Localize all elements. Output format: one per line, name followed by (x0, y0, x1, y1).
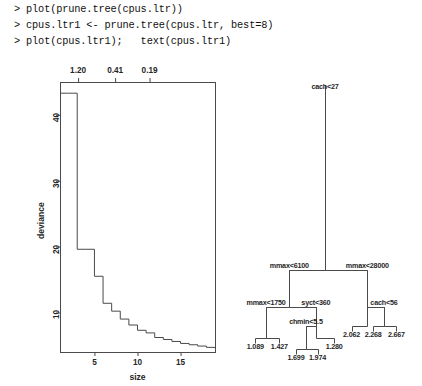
tree-leaf-label: 1.974 (309, 353, 326, 362)
tree-leaf-label: 1.280 (326, 342, 343, 351)
tree-leaf-label: 2.268 (365, 330, 382, 339)
x-axis-title: size (129, 372, 145, 382)
tree-edges-svg (228, 62, 422, 362)
tree-split-label: syct<360 (301, 298, 330, 307)
tree-split-label: chmin<5.5 (289, 317, 323, 326)
tree-leaf-label: 1.089 (247, 342, 264, 351)
tree-split-label: mmax<28000 (346, 261, 389, 270)
tree-leaf-label: 1.427 (271, 342, 288, 351)
deviance-step-plot: 1.20 0.41 0.19 40 30 20 10 5 10 15 devia… (18, 62, 228, 362)
console-line: > plot(cpus.ltr1); text(cpus.ltr1) (14, 35, 231, 47)
tree-split-label: cach<56 (370, 298, 397, 307)
console-line: > plot(prune.tree(cpus.ltr)) (14, 3, 183, 15)
tree-leaf-label: 2.667 (388, 330, 405, 339)
tree-split-label: cach<27 (311, 82, 338, 91)
tree-leaf-label: 2.062 (343, 330, 360, 339)
r-console-transcript: > plot(prune.tree(cpus.ltr)) > cpus.ltr1… (0, 0, 422, 56)
console-line: > cpus.ltr1 <- prune.tree(cpus.ltr, best… (14, 19, 273, 31)
regression-tree-plot: cach<27mmax<6100mmax<28000mmax<1750syct<… (228, 62, 422, 362)
step-curve-svg (18, 62, 228, 362)
tree-leaf-label: 1.699 (287, 353, 304, 362)
screenshot-page: > plot(prune.tree(cpus.ltr)) > cpus.ltr1… (0, 0, 422, 386)
tree-split-label: mmax<6100 (270, 261, 309, 270)
tree-split-label: mmax<1750 (246, 298, 285, 307)
